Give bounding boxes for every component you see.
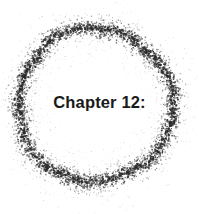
chapter-title: Chapter 12:	[0, 93, 199, 112]
chapter-divider-canvas: Chapter 12:	[0, 0, 199, 214]
